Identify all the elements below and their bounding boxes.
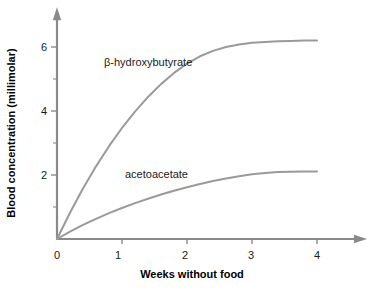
series-label-beta-hydroxybutyrate: β-hydroxybutyrate — [104, 57, 192, 68]
x-axis-arrowhead-icon — [354, 235, 367, 243]
data-series-group — [57, 41, 317, 239]
y-tick-label-2: 2 — [33, 170, 47, 181]
plot-area — [0, 0, 385, 291]
series-label-acetoacetate: acetoacetate — [125, 169, 188, 180]
series-curve-beta-hydroxybutyrate — [57, 41, 317, 239]
tick-marks-group — [51, 47, 317, 244]
series-curve-acetoacetate — [57, 171, 317, 239]
x-tick-label-4: 4 — [314, 250, 320, 261]
y-tick-label-6: 6 — [33, 42, 47, 53]
x-tick-label-0: 0 — [54, 250, 60, 261]
y-tick-label-4: 4 — [33, 106, 47, 117]
chart-figure: 0 1 2 3 4 2 4 6 Weeks without food Blood… — [0, 0, 385, 291]
x-tick-label-3: 3 — [248, 250, 254, 261]
x-tick-label-1: 1 — [115, 250, 121, 261]
x-axis-title: Weeks without food — [140, 269, 244, 280]
axes-group — [53, 7, 367, 243]
y-axis-title: Blood concentration (millimolar) — [6, 48, 17, 217]
x-tick-label-2: 2 — [182, 250, 188, 261]
y-axis-arrowhead-icon — [53, 7, 61, 20]
